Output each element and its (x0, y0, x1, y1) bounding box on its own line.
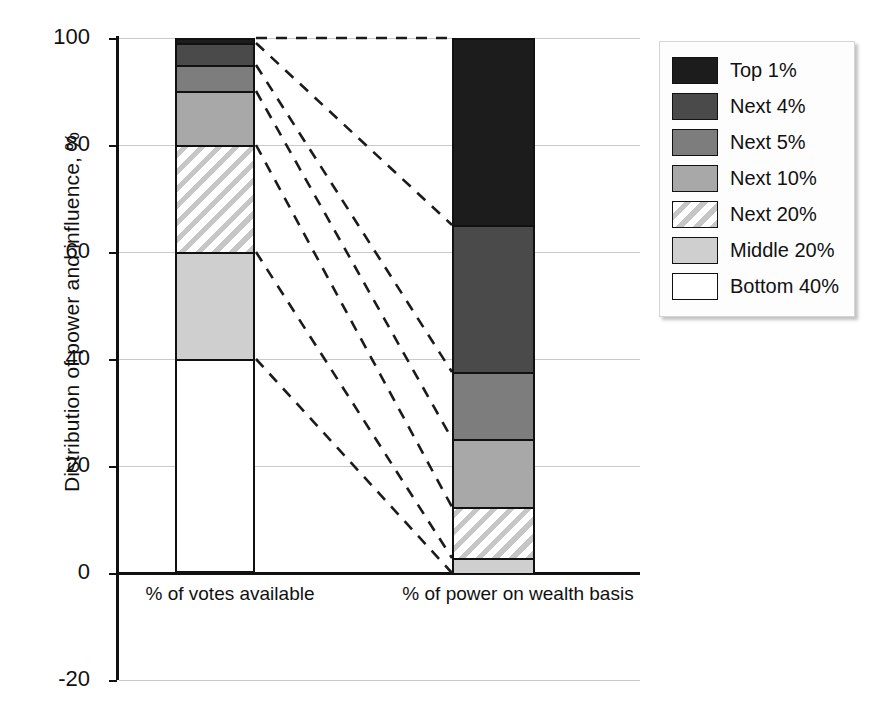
segment-power-next4 (454, 227, 533, 374)
tick-mark-100 (109, 38, 117, 40)
y-tick-label-60: 60 (0, 240, 90, 262)
legend-label-middle20: Middle 20% (730, 239, 835, 262)
y-tick-label-0: 0 (0, 561, 90, 583)
segment-power-middle20 (454, 560, 533, 575)
legend: Top 1% Next 4% Next 5% Next 10% Next 20%… (659, 41, 855, 317)
legend-swatch-top1-icon (672, 57, 718, 84)
y-tick-label-minus20: -20 (0, 668, 90, 690)
legend-label-next10: Next 10% (730, 167, 817, 190)
segment-power-next10 (454, 441, 533, 509)
legend-item-top1[interactable]: Top 1% (672, 52, 842, 88)
legend-item-middle20[interactable]: Middle 20% (672, 232, 842, 268)
segment-votes-next4 (177, 45, 253, 67)
segment-votes-next5 (177, 67, 253, 93)
segment-power-top1 (454, 40, 533, 227)
tick-mark-40 (109, 359, 117, 361)
connector-top1-next4 (256, 43, 452, 225)
x-category-label-votes: % of votes available (115, 583, 345, 605)
legend-swatch-next4-icon (672, 93, 718, 120)
legend-label-top1: Top 1% (730, 59, 797, 82)
segment-votes-middle20 (177, 254, 253, 361)
legend-item-next20[interactable]: Next 20% (672, 196, 842, 232)
legend-item-next10[interactable]: Next 10% (672, 160, 842, 196)
segment-power-next20 (454, 509, 533, 560)
legend-label-next5: Next 5% (730, 131, 806, 154)
chart-container: Distribution of power and influence, % 1… (0, 0, 871, 716)
legend-swatch-next20-icon (672, 201, 718, 228)
tick-mark-0 (109, 573, 117, 575)
legend-item-next5[interactable]: Next 5% (672, 124, 842, 160)
y-tick-label-20: 20 (0, 454, 90, 476)
segment-power-next5 (454, 374, 533, 441)
segment-votes-bottom40 (177, 361, 253, 570)
y-tick-label-80: 80 (0, 133, 90, 155)
legend-swatch-bottom40-icon (672, 273, 718, 300)
y-tick-label-40: 40 (0, 347, 90, 369)
connector-next4-next5 (256, 65, 452, 372)
tick-mark-60 (109, 252, 117, 254)
legend-swatch-middle20-icon (672, 237, 718, 264)
connector-next10-next20 (256, 145, 452, 507)
connector-next5-next10 (256, 91, 452, 439)
legend-swatch-next5-icon (672, 129, 718, 156)
connector-next20-middle20 (256, 252, 452, 558)
segment-votes-next20 (177, 147, 253, 254)
legend-label-next4: Next 4% (730, 95, 806, 118)
y-axis-title: Distribution of power and influence, % (60, 32, 84, 592)
segment-votes-next10 (177, 93, 253, 147)
legend-label-next20: Next 20% (730, 203, 817, 226)
legend-label-bottom40: Bottom 40% (730, 275, 839, 298)
tick-mark-20 (109, 466, 117, 468)
x-category-label-power: % of power on wealth basis (368, 583, 668, 605)
bar-votes-available[interactable] (175, 38, 255, 573)
tick-mark-80 (109, 145, 117, 147)
gridline-minus20 (119, 680, 640, 681)
tick-mark-minus20 (109, 680, 117, 682)
legend-swatch-next10-icon (672, 165, 718, 192)
legend-item-bottom40[interactable]: Bottom 40% (672, 268, 842, 304)
bar-power-wealth-basis[interactable] (452, 38, 535, 573)
y-tick-label-100: 100 (0, 26, 90, 48)
legend-item-next4[interactable]: Next 4% (672, 88, 842, 124)
